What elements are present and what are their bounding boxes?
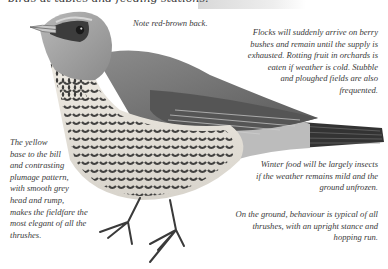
- text-line: makes the fieldfare the: [10, 207, 120, 219]
- text-line: if the weather remains mild and the: [203, 171, 378, 183]
- annotation-behaviour: On the ground, behaviour is typical of a…: [188, 209, 378, 244]
- text-line: frequented.: [203, 85, 378, 97]
- text-line: and ploughed fields are also: [203, 73, 378, 85]
- book-page: birds at tables and feeding stations.: [0, 0, 388, 269]
- tail: [300, 122, 384, 148]
- text-line: bushes and remain until the supply is: [203, 39, 378, 51]
- text-line: and contrasting: [10, 160, 120, 172]
- text-line: base to the bill: [10, 149, 120, 161]
- text-line: with smooth grey: [10, 183, 120, 195]
- text-line: ground unfrozen.: [203, 182, 378, 194]
- text-line: exhausted. Rotting fruit in orchards is: [203, 50, 378, 62]
- text-line: plumage pattern,: [10, 172, 120, 184]
- annotation-back: Note red-brown back.: [133, 18, 208, 30]
- annotation-yellow-bill: The yellow base to the bill and contrast…: [10, 137, 120, 241]
- text-line: thrushes.: [10, 230, 120, 242]
- text-line: On the ground, behaviour is typical of a…: [188, 209, 378, 221]
- annotation-winter-food: Winter food will be largely insects if t…: [203, 159, 378, 194]
- text-line: most elegant of all the: [10, 218, 120, 230]
- text-line: The yellow: [10, 137, 120, 149]
- text-line: eaten if weather is cold. Stubble: [203, 62, 378, 74]
- text-line: hopping run.: [188, 232, 378, 244]
- text-line: Winter food will be largely insects: [203, 159, 378, 171]
- text-line: Flocks will suddenly arrive on berry: [203, 27, 378, 39]
- annotation-flocks: Flocks will suddenly arrive on berry bus…: [203, 27, 378, 97]
- text-line: thrushes, with an upright stance and: [188, 221, 378, 233]
- text-line: head and rump,: [10, 195, 120, 207]
